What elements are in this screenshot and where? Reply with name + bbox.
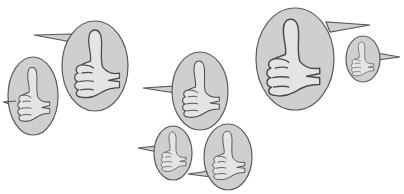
speech-bubble-c: [143, 52, 228, 130]
speech-bubble-e: [188, 124, 252, 190]
thumbs-up-bubbles-illustration: [0, 0, 404, 194]
speech-bubble-g: [346, 36, 400, 82]
speech-bubble-d: [138, 126, 192, 180]
speech-bubble-a: [4, 57, 58, 135]
